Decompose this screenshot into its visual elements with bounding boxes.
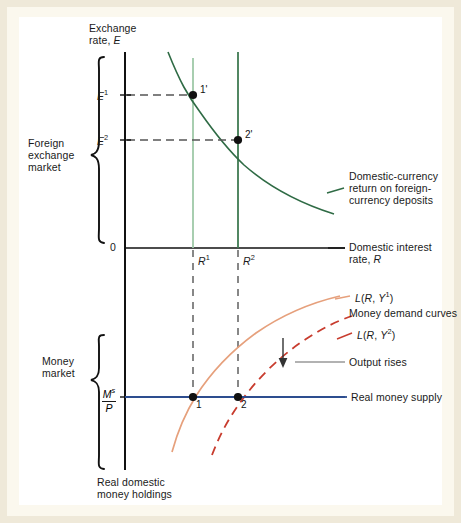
fx-curve-leader <box>327 188 344 193</box>
money-demand-curve-2-label: L(R, Y2) <box>357 326 395 341</box>
diagram-stage: Exchangerate, E E1 E2 0 R1 R2 1' 2' 1 2 … <box>0 0 461 523</box>
x-axis-title: Real domesticmoney holdings <box>97 476 172 500</box>
fx-return-curve-label: Domestic-currencyreturn on foreign-curre… <box>349 170 438 207</box>
money-demand-curve-2 <box>212 316 352 455</box>
output-rises-label: Output rises <box>349 356 407 368</box>
e2-label: E2 <box>97 132 108 147</box>
point-1-prime-label: 1' <box>200 84 207 95</box>
output-rises-arrow-head <box>279 358 288 368</box>
r2-label: R2 <box>243 252 255 267</box>
point-1-label: 1 <box>196 399 202 410</box>
real-money-supply-label: Real money supply <box>351 391 442 403</box>
money-demand-curves-title: Money demand curves <box>349 307 457 319</box>
fx-market-bracket-label: Foreignexchangemarket <box>28 137 74 174</box>
point-1-prime-marker <box>189 91 197 99</box>
money-market-bracket-label: Moneymarket <box>42 355 75 379</box>
r1-label: R1 <box>198 252 210 267</box>
fx-market-brace <box>91 57 104 243</box>
origin-label: 0 <box>110 241 116 253</box>
money-demand-curve-1 <box>172 296 340 452</box>
demand-2-leader <box>337 333 352 339</box>
e1-label: E1 <box>97 87 108 102</box>
ms-over-p-label: Ms P <box>99 385 119 414</box>
y-axis-title: Exchangerate, E <box>89 22 137 46</box>
interest-rate-axis-label: Domestic interestrate, R <box>349 241 432 265</box>
money-demand-curve-1-label: L(R, Y1) <box>355 289 393 304</box>
point-2-label: 2 <box>241 399 247 410</box>
point-2-prime-marker <box>234 136 242 144</box>
point-2-prime-label: 2' <box>245 129 252 140</box>
